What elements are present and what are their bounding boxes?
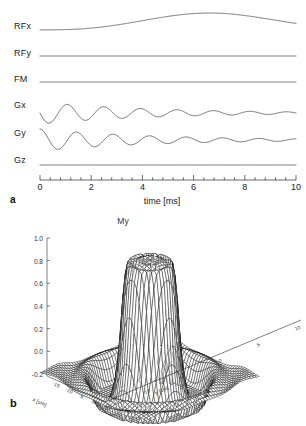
x-tick-4: 4 [140, 182, 145, 192]
x-tick-6: 6 [191, 182, 196, 192]
figure-container: RFx RFy FM Gx Gy Gz 0246810 time [ms] [0, 0, 306, 426]
z-tick-0.8: 0.8 [34, 257, 43, 264]
x-tick-0: 0 [37, 182, 42, 192]
z-tick-0.0: 0.0 [34, 348, 43, 355]
panel-a-pulse-sequence: RFx RFy FM Gx Gy Gz 0246810 time [ms] [0, 0, 306, 214]
z-tick-0.6: 0.6 [34, 280, 43, 287]
panel-letter-b: b [10, 397, 17, 409]
panel-b-surface-plot: My 1.00.80.60.40.20.0-0.2 -15-10-505 -15… [0, 214, 306, 426]
z-tick-1.0: 1.0 [34, 235, 43, 242]
z-tick-0.4: 0.4 [34, 303, 43, 310]
surface-mesh [0, 214, 306, 426]
z-tick-0.2: 0.2 [34, 325, 43, 332]
x-tick-2: 2 [89, 182, 94, 192]
x-axis-panel-a [0, 0, 306, 214]
z-tick--0.2: -0.2 [32, 371, 43, 378]
panel-letter-a: a [10, 194, 16, 205]
x-tick-8: 8 [242, 182, 247, 192]
x-axis-label-panel-a: time [ms] [0, 196, 306, 206]
x-axis-label-text: time [ms] [144, 196, 181, 206]
x-tick-10: 10 [291, 182, 301, 192]
